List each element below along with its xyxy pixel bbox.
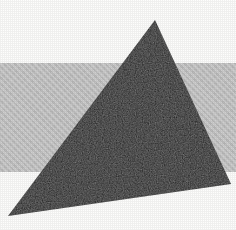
composition-canvas (0, 0, 236, 230)
triangle-polygon (8, 20, 231, 216)
dark-triangle (0, 0, 236, 230)
